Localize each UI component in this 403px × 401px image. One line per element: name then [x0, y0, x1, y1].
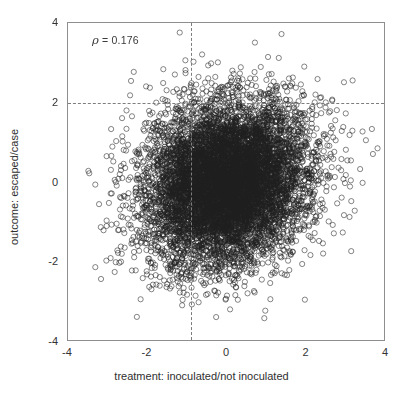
rho-symbol: ρ [92, 33, 99, 47]
x-tick-label: -4 [47, 346, 87, 358]
y-tick-label: -2 [24, 255, 58, 267]
y-tick [67, 23, 68, 24]
y-tick [67, 103, 68, 104]
correlation-annotation: ρ = 0.176 [92, 33, 139, 47]
x-tick [68, 340, 69, 341]
y-axis-title: outcome: escaped/case [8, 87, 20, 287]
rho-value: 0.176 [112, 34, 139, 46]
horizontal-reference-line [68, 103, 384, 104]
rho-equals: = [99, 34, 112, 46]
x-tick-label: 4 [365, 346, 403, 358]
y-tick [67, 262, 68, 263]
x-tick [148, 340, 149, 341]
x-tick [227, 340, 228, 341]
plot-frame: ρ = 0.176 [67, 22, 385, 341]
scatter-plot-figure: ρ = 0.176 -4-2024 -4-2024 outcome: escap… [0, 0, 403, 401]
x-axis-title: treatment: inoculated/not inoculated [0, 370, 403, 382]
vertical-reference-line [191, 23, 192, 340]
x-tick [307, 340, 308, 341]
y-tick-label: 2 [24, 96, 58, 108]
x-tick-label: 2 [286, 346, 326, 358]
x-tick-label: 0 [206, 346, 246, 358]
y-tick [67, 183, 68, 184]
x-tick-label: -2 [127, 346, 167, 358]
y-tick-label: 0 [24, 176, 58, 188]
y-tick-label: 4 [24, 16, 58, 28]
scatter-points-layer [68, 23, 385, 341]
